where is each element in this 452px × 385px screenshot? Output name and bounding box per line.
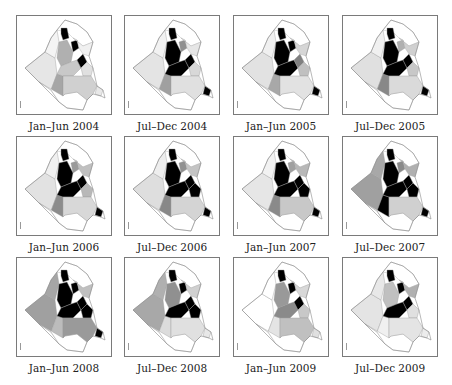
scale-bar [237,343,238,350]
map-frame [342,15,438,115]
scale-bar [237,222,238,229]
map-frame [233,15,329,115]
map-panel-0: Jan–Jun 2004 [16,15,112,115]
period-label: Jul–Dec 2004 [112,120,232,132]
iraq-map [17,16,111,114]
map-panel-6: Jan–Jun 2007 [233,136,329,236]
map-panel-2: Jan–Jun 2005 [233,15,329,115]
period-label: Jan–Jun 2009 [221,362,341,374]
period-label: Jan–Jun 2007 [221,241,341,253]
map-frame [16,136,112,236]
period-label: Jan–Jun 2006 [4,241,124,253]
iraq-map [234,258,328,356]
iraq-map [17,258,111,356]
scale-bar [346,343,347,350]
map-frame [342,257,438,357]
period-label: Jul–Dec 2005 [330,120,450,132]
scale-bar [128,222,129,229]
iraq-map [234,137,328,235]
map-panel-9: Jul–Dec 2008 [124,257,220,357]
map-panel-1: Jul–Dec 2004 [124,15,220,115]
map-frame [233,136,329,236]
scale-bar [20,343,21,350]
map-panel-7: Jul–Dec 2007 [342,136,438,236]
scale-bar [346,222,347,229]
iraq-map [125,137,219,235]
iraq-map [343,258,437,356]
period-label: Jul–Dec 2006 [112,241,232,253]
iraq-map [17,137,111,235]
iraq-map [125,258,219,356]
iraq-map [343,16,437,114]
iraq-map [125,16,219,114]
map-panel-5: Jul–Dec 2006 [124,136,220,236]
period-label: Jan–Jun 2005 [221,120,341,132]
scale-bar [20,101,21,108]
map-frame [124,257,220,357]
scale-bar [128,343,129,350]
period-label: Jan–Jun 2004 [4,120,124,132]
iraq-map [234,16,328,114]
scale-bar [20,222,21,229]
scale-bar [128,101,129,108]
period-label: Jul–Dec 2008 [112,362,232,374]
map-frame [16,15,112,115]
period-label: Jul–Dec 2009 [330,362,450,374]
map-panel-11: Jul–Dec 2009 [342,257,438,357]
map-frame [124,136,220,236]
map-panel-4: Jan–Jun 2006 [16,136,112,236]
map-frame [233,257,329,357]
period-label: Jan–Jun 2008 [4,362,124,374]
period-label: Jul–Dec 2007 [330,241,450,253]
map-panel-10: Jan–Jun 2009 [233,257,329,357]
map-panel-3: Jul–Dec 2005 [342,15,438,115]
scale-bar [237,101,238,108]
iraq-map [343,137,437,235]
scale-bar [346,101,347,108]
map-frame [16,257,112,357]
map-frame [124,15,220,115]
map-frame [342,136,438,236]
map-panel-8: Jan–Jun 2008 [16,257,112,357]
